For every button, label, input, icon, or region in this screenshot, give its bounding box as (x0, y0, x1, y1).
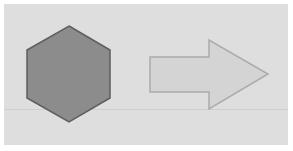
diagram-canvas (0, 0, 293, 151)
right-arrow-shape (150, 40, 268, 109)
hexagon-shape (27, 26, 110, 122)
